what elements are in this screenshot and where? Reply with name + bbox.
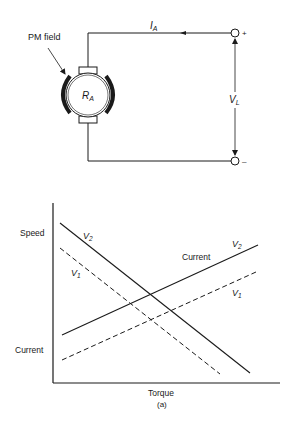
speed-axis-label: Speed [20, 228, 45, 238]
pm-dc-motor-figure: RA PM field IA + – VL Speed Current Torq… [0, 0, 287, 427]
current-line-v1 [62, 272, 256, 360]
current-v2-label: V2 [232, 239, 242, 250]
positive-terminal [231, 29, 239, 37]
top-wire [88, 33, 231, 68]
current-line-v2 [62, 245, 258, 335]
pm-field-label: PM field [28, 32, 61, 42]
armature-current-label: IA [150, 20, 158, 32]
current-axis-label: Current [15, 345, 44, 355]
pm-field-arrow-icon [48, 48, 65, 74]
figure-caption: (a) [157, 400, 167, 409]
torque-axis-label: Torque [148, 388, 174, 398]
current-v1-label: V1 [232, 288, 242, 299]
current-arrow-icon [180, 31, 186, 35]
speed-v2-label: V2 [83, 231, 93, 242]
speed-line-v2 [60, 223, 250, 373]
bottom-wire [88, 122, 231, 161]
speed-line-v1 [60, 248, 220, 374]
speed-current-torque-chart: Speed Current Torque (a) V2 V1 Current V… [15, 203, 280, 409]
motor-circuit: RA PM field IA + – VL [28, 20, 247, 166]
speed-v1-label: V1 [71, 268, 81, 279]
positive-terminal-label: + [242, 29, 247, 38]
negative-terminal-label: – [242, 157, 247, 166]
current-line-label: Current [182, 252, 211, 262]
negative-terminal [231, 157, 239, 165]
